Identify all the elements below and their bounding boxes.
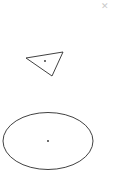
close-icon[interactable]: ✕ — [99, 1, 110, 12]
canvas-background — [0, 0, 127, 179]
shape-canvas-window: ✕ — [0, 0, 127, 179]
canvas-svg — [0, 0, 127, 179]
drawing-canvas[interactable] — [0, 0, 127, 179]
triangle-center-dot[interactable] — [44, 60, 46, 62]
ellipse-center-dot[interactable] — [47, 140, 49, 142]
